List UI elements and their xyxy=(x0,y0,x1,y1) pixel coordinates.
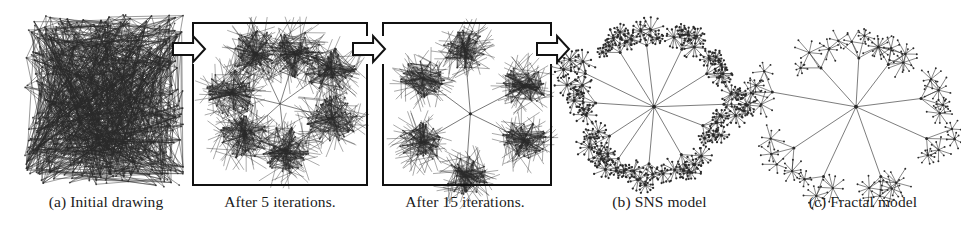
panel-after-15-iterations xyxy=(382,22,552,186)
panel-border-after-5-iterations xyxy=(192,22,368,186)
caption-after-15-iterations: After 15 iterations. xyxy=(370,193,560,211)
panel-art-sns-model xyxy=(556,6,752,186)
panel-art-fractal-model xyxy=(756,6,956,186)
caption-fractal-model: (c) Fractal model xyxy=(768,193,958,211)
figure-panel-row: (a) Initial drawingAfter 5 iterations.Af… xyxy=(0,0,961,232)
arrow-right-icon xyxy=(536,34,570,64)
caption-initial-drawing: (a) Initial drawing xyxy=(16,193,196,211)
panel-after-5-iterations xyxy=(192,22,368,186)
panel-border-after-15-iterations xyxy=(382,22,552,186)
caption-after-5-iterations: After 5 iterations. xyxy=(190,193,370,211)
arrow-3 xyxy=(536,34,570,64)
caption-sns-model: (b) SNS model xyxy=(572,193,747,211)
graph-drawing xyxy=(756,6,956,186)
arrow-right-icon xyxy=(352,34,386,64)
panel-initial-drawing xyxy=(30,20,178,182)
arrow-1 xyxy=(172,34,206,64)
panel-fractal-model xyxy=(756,6,956,186)
panel-art-initial-drawing xyxy=(30,20,178,182)
graph-drawing xyxy=(30,20,178,182)
graph-drawing xyxy=(556,6,752,186)
panel-sns-model xyxy=(556,6,752,186)
arrow-right-icon xyxy=(172,34,206,64)
arrow-2 xyxy=(352,34,386,64)
